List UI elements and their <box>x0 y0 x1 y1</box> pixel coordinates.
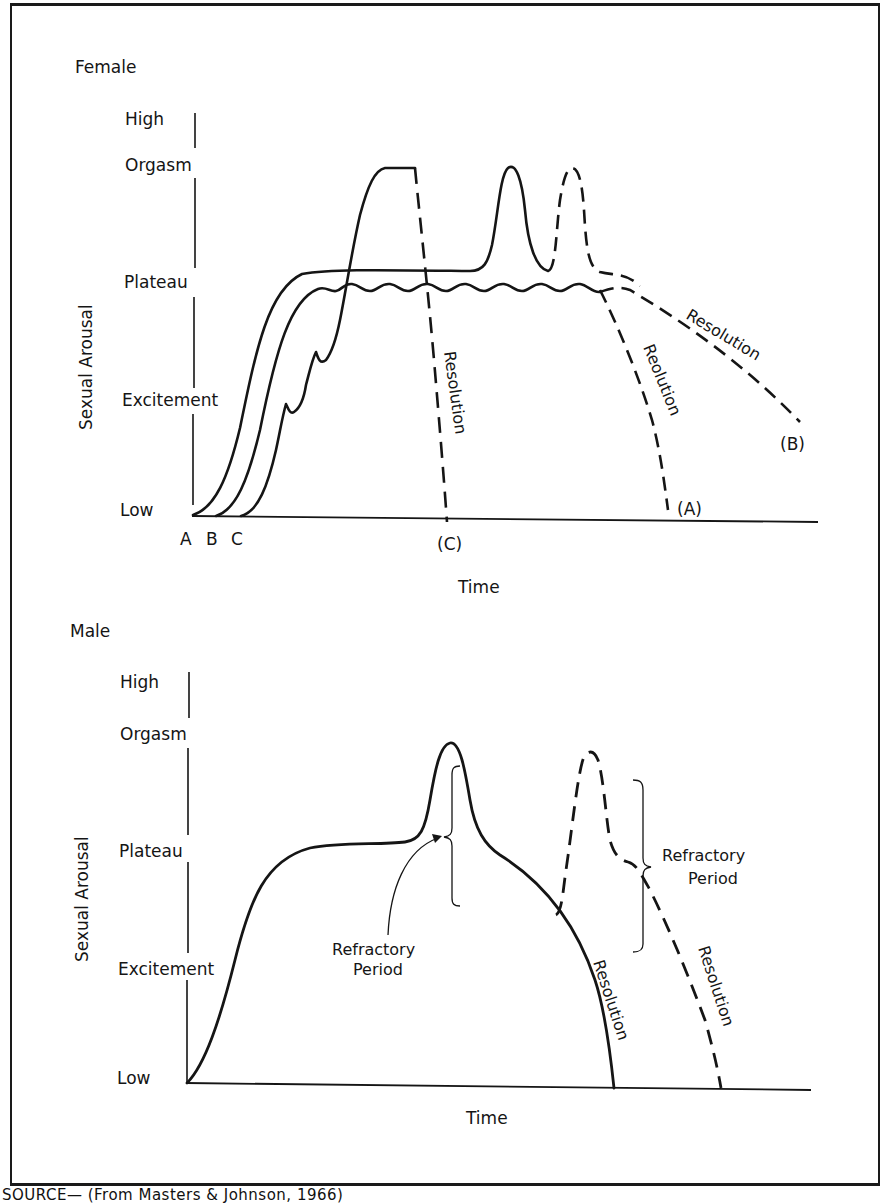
female-curve-a-dashed-peak <box>548 168 640 286</box>
female-curve-a-resolution <box>600 290 668 510</box>
female-curve-a-solid <box>193 167 548 515</box>
male-chart: Male High Orgasm Plateau Excitement Low … <box>70 621 811 1128</box>
female-y-axis-label: Sexual Arousal <box>76 304 96 430</box>
male-refractory-2-line1: Refractory <box>662 846 745 865</box>
male-y-axis <box>187 672 189 1083</box>
female-resolution-c-label: Resolution <box>440 350 470 435</box>
arrowhead-icon <box>432 834 442 843</box>
male-curve-solid <box>187 743 614 1088</box>
male-refractory-brace-1 <box>444 766 460 906</box>
female-end-b: (B) <box>780 434 805 454</box>
female-level-plateau: Plateau <box>124 272 188 292</box>
female-level-low: Low <box>120 500 154 520</box>
source-note: SOURCE— (From Masters & Johnson, 1966) <box>2 1186 343 1204</box>
female-end-a: (A) <box>677 499 702 519</box>
male-resolution-dashed-label: Resolution <box>694 943 738 1028</box>
female-y-axis <box>193 113 195 505</box>
male-refractory-arrow <box>388 838 438 935</box>
female-marker-b: B <box>206 529 218 549</box>
female-resolution-a-label: Reolution <box>639 341 685 418</box>
female-resolution-b-label: Resolution <box>683 305 764 364</box>
female-marker-a: A <box>180 529 192 549</box>
female-title: Female <box>75 57 136 77</box>
male-x-axis <box>186 1083 811 1090</box>
male-level-low: Low <box>117 1068 151 1088</box>
female-x-axis <box>192 516 818 522</box>
female-x-axis-label: Time <box>457 577 500 597</box>
male-level-high: High <box>120 672 159 692</box>
male-resolution-solid-label: Resolution <box>589 957 633 1042</box>
male-level-plateau: Plateau <box>119 841 183 861</box>
female-level-high: High <box>125 109 164 129</box>
female-chart: Female High Orgasm Plateau Excitement Lo… <box>75 57 818 597</box>
male-refractory-1-line2: Period <box>353 960 403 979</box>
female-curve-c-resolution <box>415 168 447 522</box>
male-y-axis-label: Sexual Arousal <box>72 836 92 962</box>
male-level-orgasm: Orgasm <box>120 724 187 744</box>
male-level-excitement: Excitement <box>118 959 214 979</box>
female-marker-c: C <box>231 529 243 549</box>
male-refractory-2-line2: Period <box>688 869 738 888</box>
male-curve-dashed <box>556 752 721 1088</box>
female-curve-b-solid <box>216 284 600 516</box>
female-end-c: (C) <box>437 534 462 554</box>
male-x-axis-label: Time <box>465 1108 508 1128</box>
female-level-orgasm: Orgasm <box>125 155 192 175</box>
female-level-excitement: Excitement <box>122 390 218 410</box>
female-curve-c-solid <box>241 168 415 516</box>
male-title: Male <box>70 621 110 641</box>
male-refractory-1-line1: Refractory <box>332 940 415 959</box>
